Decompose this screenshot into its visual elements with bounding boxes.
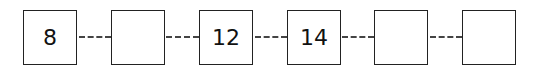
dashed-connector <box>342 36 374 38</box>
sequence-box-3: 12 <box>199 10 253 65</box>
box-value: 8 <box>43 25 57 50</box>
dashed-connector <box>255 36 287 38</box>
box-value: 12 <box>212 25 240 50</box>
dashed-connector <box>79 36 111 38</box>
sequence-box-5[interactable] <box>374 10 428 65</box>
sequence-box-6[interactable] <box>462 10 516 65</box>
sequence-box-4: 14 <box>287 10 341 65</box>
box-value: 14 <box>300 25 328 50</box>
sequence-box-2[interactable] <box>111 10 165 65</box>
dashed-connector <box>166 36 199 38</box>
sequence-box-1: 8 <box>23 10 77 65</box>
dashed-connector <box>430 36 462 38</box>
